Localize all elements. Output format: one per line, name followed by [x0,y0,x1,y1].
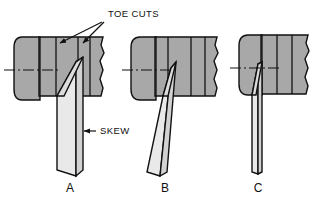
toe-cuts-label: TOE CUTS [108,8,159,19]
skew-label: SKEW [100,125,130,136]
figure-c-caption: C [254,181,263,195]
diagram-canvas: A B [0,0,316,201]
figure-b-log-endcap [131,37,156,100]
figure-a-log-endcap [14,37,40,100]
figure-a-caption: A [66,181,74,195]
figure-b-log-body [155,37,218,96]
figure-c-log-body [261,35,309,94]
figure-b-caption: B [161,181,169,195]
figure-a-blade-edge [76,57,83,176]
toe-cuts-diagram: A B [0,0,316,201]
